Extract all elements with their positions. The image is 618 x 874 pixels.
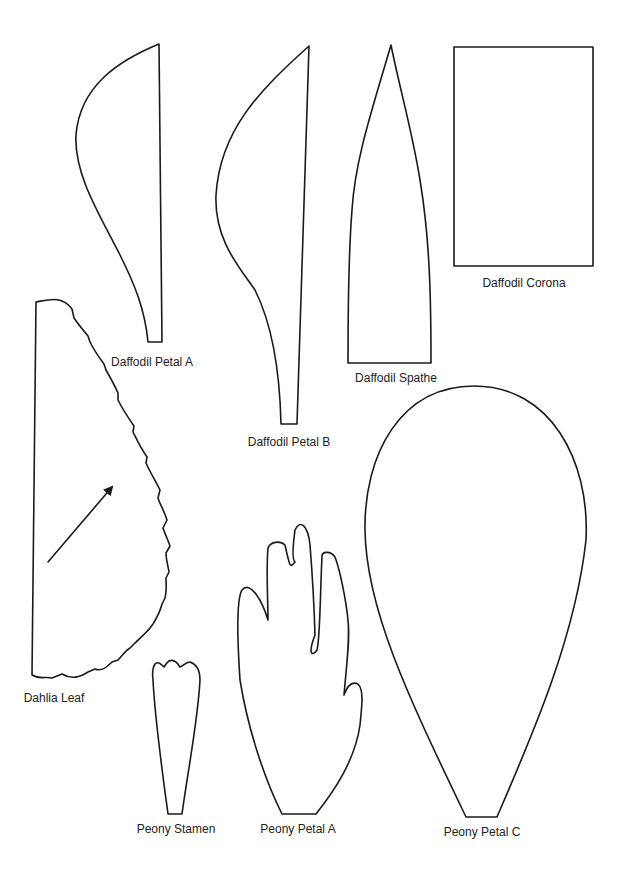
template-label: Daffodil Petal A <box>111 355 193 369</box>
template-label: Peony Petal A <box>260 822 335 836</box>
peony-petal-a-shape <box>238 525 362 814</box>
peony-stamen-shape <box>153 660 200 814</box>
daffodil-spathe-shape <box>348 45 431 363</box>
daffodil-petal-b-shape <box>216 46 309 424</box>
template-label: Peony Stamen <box>137 822 216 836</box>
template-label: Peony Petal C <box>444 825 521 839</box>
template-label: Dahlia Leaf <box>24 691 85 705</box>
grain-direction-arrow-icon <box>48 487 112 562</box>
daffodil-corona-shape <box>454 47 593 266</box>
daffodil-petal-a-shape <box>76 44 162 342</box>
peony-petal-c-shape <box>365 386 586 817</box>
template-label: Daffodil Petal B <box>248 435 331 449</box>
template-label: Daffodil Corona <box>482 276 565 290</box>
template-label: Daffodil Spathe <box>355 371 437 385</box>
template-sheet: Daffodil Petal A Daffodil Petal B Daffod… <box>0 0 618 874</box>
